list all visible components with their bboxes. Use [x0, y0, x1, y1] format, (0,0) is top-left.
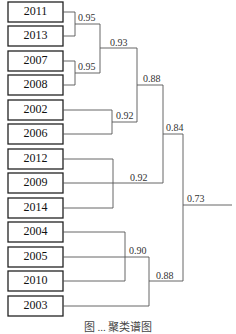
leaf-label: 2003	[24, 298, 48, 312]
leaf-label: 2012	[24, 151, 48, 165]
leaf-label: 2002	[24, 102, 48, 116]
leaf-label: 2013	[24, 28, 48, 42]
node-label: 0.84	[166, 122, 184, 133]
node-label: 0.92	[130, 172, 148, 183]
node-labels: 0.95 0.95 0.93 0.92 0.88 0.92 0.84 0.90 …	[78, 12, 205, 281]
leaf-label: 2010	[24, 273, 48, 287]
node-label: 0.90	[129, 245, 147, 256]
leaf-label: 2009	[24, 175, 48, 189]
node-label: 0.88	[143, 73, 161, 84]
branch-2004-2010	[63, 232, 125, 281]
branch-2012-2014	[63, 159, 113, 208]
leaf-label: 2008	[24, 77, 48, 91]
branch-088-bottom	[63, 257, 149, 306]
branches	[63, 12, 232, 306]
node-label: 0.88	[156, 270, 174, 281]
node-label: 0.93	[110, 37, 128, 48]
branch-073	[163, 134, 183, 281]
node-label: 0.73	[187, 193, 205, 204]
figure-caption: 图 ... 聚类谱图	[0, 318, 236, 334]
leaf-label: 2014	[24, 200, 48, 214]
leaf-label: 2004	[24, 224, 48, 238]
node-label: 0.92	[116, 110, 134, 121]
leaf-label: 2006	[24, 126, 48, 140]
branch-2007-2008	[63, 61, 75, 85]
leaf-label: 2011	[24, 4, 48, 18]
node-label: 0.95	[78, 61, 96, 72]
leaf-label: 2007	[24, 53, 48, 67]
branch-2011-2013	[63, 12, 75, 36]
branch-084	[137, 85, 163, 183]
node-label: 0.95	[78, 12, 96, 23]
leaf-label: 2005	[24, 249, 48, 263]
branch-2002-2006	[63, 110, 112, 134]
